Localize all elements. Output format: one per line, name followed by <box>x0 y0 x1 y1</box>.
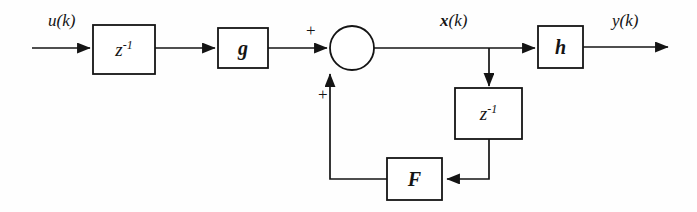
diagram-wires <box>0 0 697 212</box>
summing-junction <box>330 26 374 70</box>
wire-delay-state-to-gain-F <box>447 139 489 179</box>
block-diagram-canvas: z-1 g h z-1 F u(k) x(k) y(k) + + <box>0 0 697 212</box>
block-gain-g <box>218 28 268 68</box>
wire-gain-F-to-sum <box>330 74 387 179</box>
block-gain-h <box>538 26 583 68</box>
block-delay-input <box>93 25 155 74</box>
block-gain-F <box>387 158 442 200</box>
block-delay-state <box>455 88 522 139</box>
